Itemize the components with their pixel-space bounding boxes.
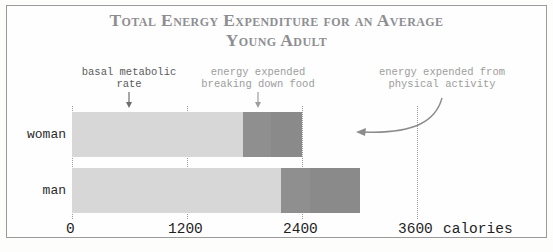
figure-root: Total Energy Expenditure for an Average … <box>0 0 553 252</box>
annotation-basal-metabolic-rate: basal metabolic rate <box>64 66 194 90</box>
bar-segment-man-food <box>281 168 310 213</box>
tick-label-2400: 2400 <box>283 221 318 237</box>
tick-label-0: 0 <box>66 221 75 237</box>
annotation-breaking-down-food: energy expended breaking down food <box>193 66 323 90</box>
bar-man <box>72 168 360 213</box>
bar-segment-woman-basal <box>72 112 243 157</box>
axis-unit-label: calories <box>443 221 513 237</box>
bar-segment-man-activity <box>310 168 360 213</box>
annotation-arrow-activity-curved-icon <box>330 96 450 146</box>
row-label-woman: woman <box>4 127 66 142</box>
plot-area: woman man 0 1200 2400 3600 calories basa… <box>0 0 553 252</box>
bar-woman <box>72 112 302 157</box>
tick-label-3600: 3600 <box>398 221 433 237</box>
annotation-physical-activity: energy expended from physical activity <box>362 66 522 90</box>
tick-label-1200: 1200 <box>168 221 203 237</box>
bar-segment-man-basal <box>72 168 281 213</box>
bar-segment-woman-activity <box>271 112 302 157</box>
row-label-man: man <box>4 183 66 198</box>
bar-segment-woman-food <box>243 112 271 157</box>
annotation-arrow-food-down-icon <box>252 92 264 108</box>
annotation-arrow-basal-down-icon <box>123 92 135 108</box>
